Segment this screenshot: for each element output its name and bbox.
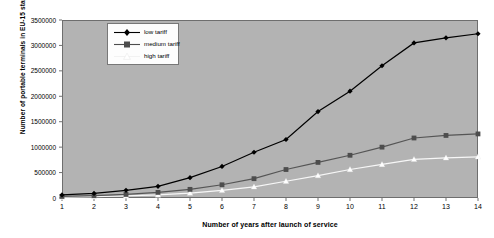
- x-axis-title: Number of years after launch of service: [60, 221, 480, 228]
- legend-item-low-tariff: low tariff: [108, 27, 178, 39]
- x-tick-label: 3: [116, 203, 136, 211]
- x-tick-label: 12: [404, 203, 424, 211]
- y-tick-label: 2000000: [0, 93, 56, 100]
- series-high-tariff: [59, 154, 481, 200]
- x-tick-label: 8: [276, 203, 296, 211]
- legend-label-low-tariff: low tariff: [144, 28, 167, 36]
- legend-label-medium-tariff: medium tariff: [144, 40, 180, 48]
- x-tick-label: 4: [148, 203, 168, 211]
- series-medium-tariff: [60, 132, 481, 199]
- legend-marker-triangle-icon: [112, 51, 142, 62]
- legend-marker-square-icon: [112, 39, 142, 50]
- x-tick-label: 7: [244, 203, 264, 211]
- y-tick-label: 1500000: [0, 118, 56, 125]
- legend-item-medium-tariff: medium tariff: [108, 39, 178, 51]
- y-tick-label: 3000000: [0, 42, 56, 49]
- y-tick-label: 1000000: [0, 144, 56, 151]
- legend-marker-diamond-icon: [112, 27, 142, 38]
- y-tick-label: 2500000: [0, 67, 56, 74]
- x-tick-label: 14: [468, 203, 488, 211]
- x-tick-label: 9: [308, 203, 328, 211]
- legend-label-high-tariff: high tariff: [144, 52, 169, 60]
- y-tick-label: 500000: [0, 169, 56, 176]
- x-tick-label: 6: [212, 203, 232, 211]
- x-tick-label: 11: [372, 203, 392, 211]
- legend-item-high-tariff: high tariff: [108, 51, 178, 63]
- y-tick-label: 0: [0, 195, 56, 202]
- x-tick-label: 1: [52, 203, 72, 211]
- x-tick-label: 5: [180, 203, 200, 211]
- y-tick-label: 3500000: [0, 17, 56, 24]
- chart-figure: Number of portable terminals in EU-15 st…: [0, 0, 494, 238]
- x-tick-label: 13: [436, 203, 456, 211]
- x-tick-label: 2: [84, 203, 104, 211]
- x-tick-label: 10: [340, 203, 360, 211]
- chart-legend: low tariff medium tariff high tariff: [107, 23, 179, 65]
